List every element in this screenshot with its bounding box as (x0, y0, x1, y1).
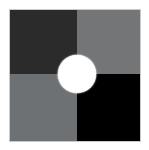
figure-canvas (0, 0, 149, 150)
quadrant-plate (9, 9, 141, 142)
center-disc (58, 55, 96, 93)
